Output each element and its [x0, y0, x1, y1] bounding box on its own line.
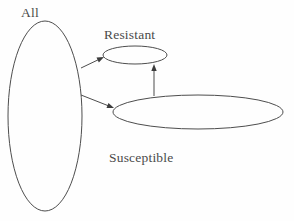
label-susceptible: Susceptible — [109, 150, 173, 166]
diagram-canvas: All Resistant Susceptible — [0, 0, 294, 221]
label-resistant: Resistant — [104, 27, 155, 43]
arrow-all-to-resistant — [81, 57, 104, 68]
label-all: All — [21, 5, 39, 21]
ellipse-all — [8, 21, 82, 211]
arrow-susceptible-to-resistant — [151, 64, 156, 96]
ellipse-resistant — [103, 46, 167, 64]
ellipse-susceptible — [113, 95, 283, 129]
arrow-all-to-susceptible — [81, 95, 114, 108]
